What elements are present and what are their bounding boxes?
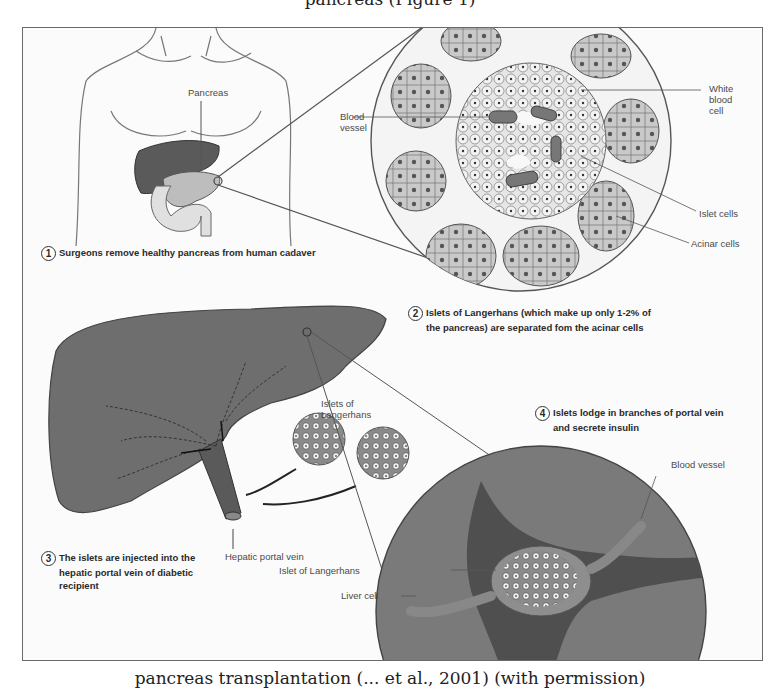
portal-vein: [199, 439, 241, 519]
liver-tissue-magnified: [376, 446, 721, 660]
label-islet-cells: Islet cells: [699, 208, 738, 219]
step-2: 2Islets of Langerhans (which make up onl…: [408, 306, 666, 334]
label-pancreas: Pancreas: [188, 87, 228, 98]
step-4: 4Islets lodge in branches of portal vein…: [535, 406, 738, 434]
label-hepatic-portal-vein: Hepatic portal vein: [225, 551, 304, 562]
caption-top: pancreas (Figure 1): [0, 0, 780, 9]
step-3: 3The islets are injected into the hepati…: [41, 551, 214, 592]
caption-bottom: pancreas transplantation (... et al., 20…: [0, 668, 780, 688]
label-islet-of-langerhans: Islet of Langerhans: [279, 565, 360, 576]
step-1: 1Surgeons remove healthy pancreas from h…: [41, 246, 401, 261]
islet-ball-2: [357, 427, 409, 479]
step-1-number: 1: [41, 246, 56, 261]
label-acinar-cells: Acinar cells: [691, 238, 740, 249]
label-blood-vessel-bottom: Blood vessel: [671, 459, 725, 470]
pancreas-tissue-magnified: [371, 28, 671, 291]
label-liver-cell: Liver cell: [341, 590, 379, 601]
pancreas-shape: [163, 172, 220, 207]
label-blood-vessel-top: Blood vessel: [340, 111, 367, 133]
step-1-text: Surgeons remove healthy pancreas from hu…: [59, 247, 316, 258]
step-4-number: 4: [535, 406, 550, 421]
figure-frame: Pancreas Blood vessel White blood cell I…: [22, 27, 763, 661]
step-3-number: 3: [41, 551, 56, 566]
step-4-text: Islets lodge in branches of portal vein …: [553, 407, 724, 433]
islet-ball-1: [293, 413, 345, 465]
step-2-number: 2: [408, 306, 423, 321]
step-3-text: The islets are injected into the hepatic…: [59, 552, 195, 591]
label-white-blood-cell: White blood cell: [709, 83, 733, 116]
label-islets-of-langerhans: Islets of Langerhans: [321, 398, 371, 420]
step-2-text: Islets of Langerhans (which make up only…: [426, 307, 651, 333]
